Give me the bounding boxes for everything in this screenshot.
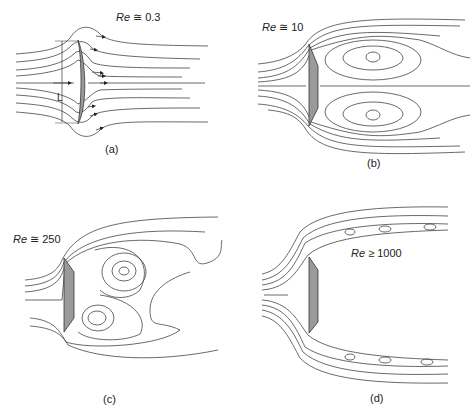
panel-b-caption: (b) <box>367 157 380 169</box>
flow-diagram-canvas <box>0 0 474 414</box>
panel-a-caption: (a) <box>105 143 118 155</box>
re-value: 10 <box>291 21 303 33</box>
re-relation: ≅ <box>133 11 142 23</box>
panel-b-plate <box>309 44 318 126</box>
panel-d-plate <box>309 257 318 333</box>
panel-d-streamlines <box>262 207 448 383</box>
panel-a-reynolds-label: Re ≅ 0.3 <box>116 11 160 24</box>
re-symbol: Re <box>351 247 365 259</box>
re-relation: ≅ <box>279 21 288 33</box>
panel-d-caption: (d) <box>370 392 383 404</box>
re-value: 0.3 <box>145 11 160 23</box>
re-relation: ≅ <box>30 233 39 245</box>
panel-b-streamlines <box>258 19 470 154</box>
panel-d-reynolds-label: Re ≥ 1000 <box>351 247 402 259</box>
panel-c-reynolds-label: Re ≅ 250 <box>13 233 61 246</box>
panel-c-caption: (c) <box>103 393 116 405</box>
re-symbol: Re <box>13 233 27 245</box>
panel-c-plate <box>64 258 74 332</box>
re-symbol: Re <box>116 11 130 23</box>
re-symbol: Re <box>262 21 276 33</box>
re-relation: ≥ <box>368 247 374 259</box>
panel-a-plate <box>55 40 85 124</box>
panel-a-streamlines <box>16 27 208 136</box>
re-value: 1000 <box>377 247 401 259</box>
panel-b-reynolds-label: Re ≅ 10 <box>262 21 303 34</box>
panel-a-length-label: L <box>57 92 63 103</box>
re-value: 250 <box>42 233 60 245</box>
